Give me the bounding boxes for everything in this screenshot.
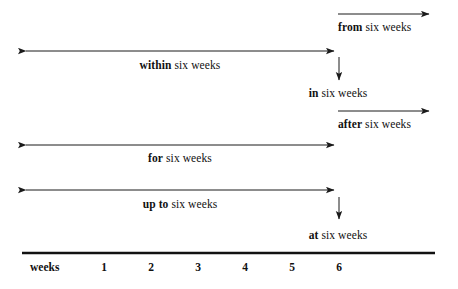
axis-tick-3: 3 bbox=[195, 262, 201, 274]
label-within-six-weeks: within six weeks bbox=[140, 60, 221, 72]
label-after-keyword: after bbox=[338, 118, 362, 130]
label-for-keyword: for bbox=[148, 152, 163, 164]
label-at-rest: six weeks bbox=[318, 229, 367, 241]
axis-label-weeks: weeks bbox=[30, 262, 59, 274]
label-in-rest: six weeks bbox=[318, 87, 367, 99]
label-up-to-rest: six weeks bbox=[168, 198, 217, 210]
label-after-rest: six weeks bbox=[362, 118, 411, 130]
label-up-to-keyword: up to bbox=[143, 198, 169, 210]
label-in-six-weeks: in six weeks bbox=[309, 88, 368, 100]
label-for-six-weeks: for six weeks bbox=[148, 153, 212, 165]
label-in-keyword: in bbox=[309, 87, 319, 99]
diagram-lines-layer bbox=[0, 0, 458, 289]
label-up-to-six-weeks: up to six weeks bbox=[143, 199, 218, 211]
label-at-six-weeks: at six weeks bbox=[309, 230, 368, 242]
label-for-rest: six weeks bbox=[163, 152, 212, 164]
axis-tick-2: 2 bbox=[148, 262, 154, 274]
axis-tick-1: 1 bbox=[101, 262, 107, 274]
axis-tick-5: 5 bbox=[289, 262, 295, 274]
label-within-keyword: within bbox=[140, 59, 172, 71]
label-within-rest: six weeks bbox=[172, 59, 221, 71]
axis-tick-6: 6 bbox=[336, 262, 342, 274]
label-from-six-weeks: from six weeks bbox=[338, 22, 411, 34]
label-from-rest: six weeks bbox=[362, 21, 411, 33]
label-at-keyword: at bbox=[309, 229, 319, 241]
label-after-six-weeks: after six weeks bbox=[338, 119, 411, 131]
label-from-keyword: from bbox=[338, 21, 362, 33]
timeline-preposition-diagram: from six weeks within six weeks in six w… bbox=[0, 0, 458, 289]
axis-tick-4: 4 bbox=[242, 262, 248, 274]
